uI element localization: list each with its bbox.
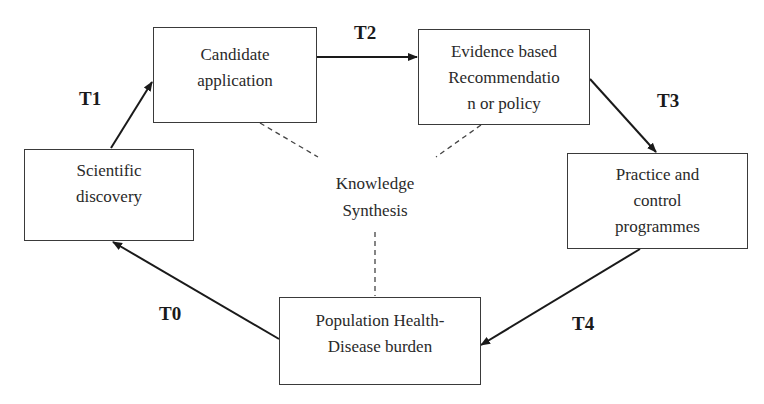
- edge-label-t3: T3: [657, 90, 679, 112]
- arrow-t4: [481, 249, 640, 345]
- node-text-line: programmes: [568, 214, 747, 240]
- node-text-line: Population Health-: [280, 308, 480, 334]
- arrow-t1: [111, 82, 152, 148]
- node-text-line: discovery: [25, 184, 193, 210]
- edge-label-t4: T4: [572, 313, 594, 335]
- arrow-t3: [590, 79, 656, 152]
- knowledge-synthesis-label: Knowledge Synthesis: [305, 170, 445, 224]
- node-text-line: n or policy: [419, 91, 589, 117]
- node-text-line: Scientific: [25, 158, 193, 184]
- center-text-line: Synthesis: [305, 197, 445, 224]
- edge-label-t2: T2: [354, 22, 376, 44]
- node-text-line: control: [568, 188, 747, 214]
- node-scientific-discovery: Scientific discovery: [24, 149, 194, 241]
- node-evidence-based-recommendation: Evidence based Recommendatio n or policy: [418, 29, 590, 125]
- node-population-health-disease-burden: Population Health- Disease burden: [279, 297, 481, 385]
- center-text-line: Knowledge: [305, 170, 445, 197]
- edge-label-t1: T1: [79, 88, 101, 110]
- node-text-line: Practice and: [568, 162, 747, 188]
- node-text-line: Disease burden: [280, 334, 480, 360]
- dashed-link-candidate: [260, 123, 318, 157]
- dashed-link-evidence: [436, 125, 481, 157]
- node-text-line: application: [154, 68, 316, 94]
- arrow-t0: [113, 242, 279, 339]
- node-text-line: Evidence based: [419, 39, 589, 65]
- node-practice-control-programmes: Practice and control programmes: [567, 153, 748, 249]
- node-text-line: Recommendatio: [419, 65, 589, 91]
- edge-label-t0: T0: [159, 303, 181, 325]
- node-candidate-application: Candidate application: [153, 27, 317, 123]
- node-text-line: Candidate: [154, 42, 316, 68]
